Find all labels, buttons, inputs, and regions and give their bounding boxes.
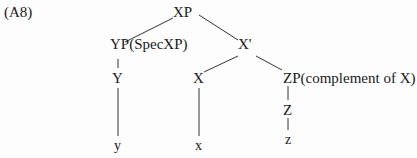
node-xbar: X'	[238, 36, 252, 52]
terminal-y: y	[114, 138, 121, 154]
node-yp-spec: YP(SpecXP)	[110, 36, 188, 52]
node-xp: XP	[173, 4, 192, 20]
node-z: Z	[283, 102, 292, 118]
edge-xbar-x	[204, 56, 238, 72]
node-zp-complement: ZP(complement of X)	[283, 70, 415, 86]
example-label: (A8)	[4, 4, 32, 20]
syntax-tree-figure: (A8) XP YP(SpecXP) X' Y X ZP(complement …	[0, 0, 417, 158]
edge-xp-xbar	[199, 15, 238, 40]
terminal-x: x	[195, 138, 202, 154]
terminal-z: z	[285, 132, 291, 148]
node-x: X	[193, 70, 204, 86]
node-y: Y	[112, 70, 123, 86]
edge-xbar-zp	[256, 56, 282, 70]
